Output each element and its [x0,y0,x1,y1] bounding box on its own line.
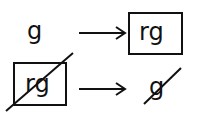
label-g-row1: g [27,19,42,43]
label-rg-row2: rg [25,72,50,96]
label-g-row2: g [149,75,164,99]
label-rg-row1: rg [139,20,164,44]
